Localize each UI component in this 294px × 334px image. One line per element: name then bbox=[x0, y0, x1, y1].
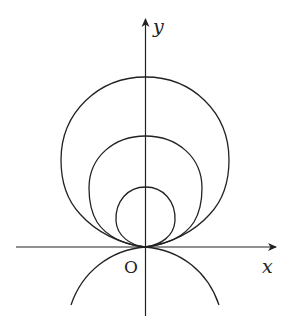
origin-label: O bbox=[124, 257, 138, 277]
diagram-canvas: y x O bbox=[0, 0, 294, 334]
curve-family-diagram: y x O bbox=[0, 0, 294, 334]
x-axis-label: x bbox=[262, 255, 273, 277]
y-axis-label: y bbox=[152, 15, 164, 37]
